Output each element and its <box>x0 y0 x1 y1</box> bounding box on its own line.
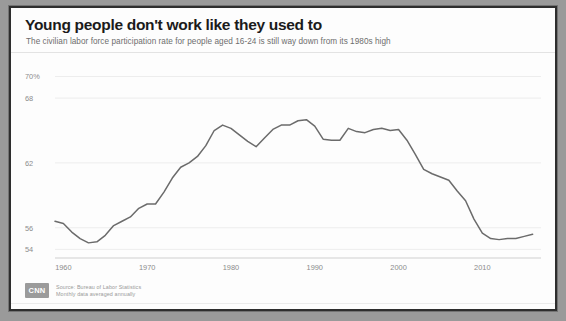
cnn-logo-icon: CNN <box>25 283 49 298</box>
header-divider <box>11 52 555 53</box>
chart-plot-area: 70%68625654 196019701980199020002010 <box>25 56 545 280</box>
footer-divider <box>11 303 555 304</box>
page-title: Young people don't work like they used t… <box>25 16 322 34</box>
source-note: Source: Bureau of Labor Statistics Month… <box>56 284 141 297</box>
source-line-1: Source: Bureau of Labor Statistics <box>56 284 141 290</box>
source-line-2: Monthly data averaged annually <box>56 291 141 297</box>
line-chart-svg <box>25 56 545 280</box>
chart-card: Young people don't work like they used t… <box>9 6 557 311</box>
chart-footer: CNN Source: Bureau of Labor Statistics M… <box>25 279 141 301</box>
screenshot-root: Young people don't work like they used t… <box>0 0 566 321</box>
chart-subtitle: The civilian labor force participation r… <box>26 37 391 46</box>
cnn-logo-text: CNN <box>29 286 46 295</box>
chart-card-inner: Young people don't work like they used t… <box>11 8 555 309</box>
